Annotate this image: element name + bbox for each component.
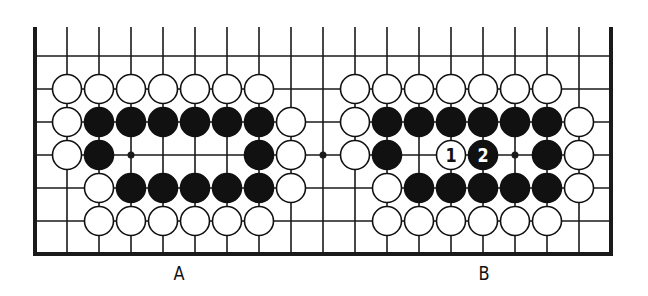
black-stone [213,174,242,203]
white-stone [117,75,146,104]
white-stone [181,207,210,236]
black-stone [405,108,434,137]
white-stone [565,174,594,203]
white-stone [437,207,466,236]
black-stone [533,174,562,203]
black-stone [437,108,466,137]
black-stone [373,141,402,170]
black-stone [245,174,274,203]
white-stone [277,108,306,137]
white-stone [373,174,402,203]
white-stone [277,141,306,170]
black-stone [469,174,498,203]
black-stone [533,108,562,137]
black-stone [373,108,402,137]
white-stone [373,207,402,236]
white-stone [533,207,562,236]
white-stone [437,75,466,104]
black-stone [405,174,434,203]
white-stone [341,108,370,137]
black-stone [501,174,530,203]
white-stone [213,75,242,104]
white-stone [85,75,114,104]
white-stone [213,207,242,236]
black-stone [85,108,114,137]
white-stone [469,75,498,104]
white-stone [53,108,82,137]
white-stone [501,75,530,104]
white-stone [501,207,530,236]
white-stone [277,174,306,203]
black-stone [181,174,210,203]
black-stone [117,174,146,203]
black-stone [245,141,274,170]
white-stone [53,75,82,104]
black-stone [213,108,242,137]
black-stone [437,174,466,203]
black-stone [533,141,562,170]
star-point [512,152,519,159]
star-point [128,152,135,159]
white-stone [85,174,114,203]
white-stone [533,75,562,104]
white-stone [341,75,370,104]
white-stone [149,75,178,104]
move-number: 1 [445,144,456,167]
white-stone [405,207,434,236]
go-board: 12 [0,0,648,296]
white-stone [117,207,146,236]
black-stone [117,108,146,137]
white-stone [565,108,594,137]
white-stone [181,75,210,104]
black-stone [501,108,530,137]
white-stone [469,207,498,236]
black-stone [245,108,274,137]
white-stone [373,75,402,104]
black-stone [181,108,210,137]
white-stone [245,207,274,236]
diagram-label-b: B [478,262,489,284]
white-stone [85,207,114,236]
black-stone [149,108,178,137]
white-stone [565,141,594,170]
black-stone [469,108,498,137]
white-stone [245,75,274,104]
white-stone [53,141,82,170]
move-number: 2 [477,144,488,167]
white-stone [341,141,370,170]
white-stone [405,75,434,104]
diagram-label-a: A [173,262,184,284]
black-stone [149,174,178,203]
star-point [320,152,327,159]
white-stone [149,207,178,236]
black-stone [85,141,114,170]
